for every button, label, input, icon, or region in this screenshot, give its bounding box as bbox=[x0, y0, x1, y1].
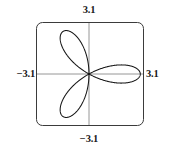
plot-screenshot: 3.1 −3.1 3.1 −3.1 bbox=[0, 0, 178, 151]
axis-range-label-left: −3.1 bbox=[2, 68, 35, 79]
plot-area bbox=[36, 22, 144, 126]
axis-range-label-top: 3.1 bbox=[0, 4, 178, 15]
rose-curve-plot bbox=[36, 22, 144, 126]
axis-range-label-right: 3.1 bbox=[146, 68, 176, 79]
axis-range-label-bottom: −3.1 bbox=[0, 133, 178, 144]
